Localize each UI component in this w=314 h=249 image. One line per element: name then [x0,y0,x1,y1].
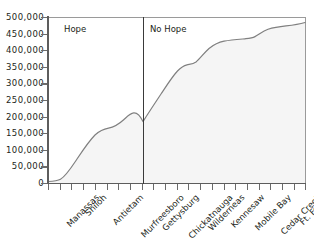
x-tick-label-antietam: Antietam [111,193,145,227]
x-axis-labels: Manassas Shiloh Antietam Murfreesboro Ge… [0,0,314,249]
casualties-area-chart: 500,000 450,000 400,000 350,000 300,000 … [0,0,314,249]
